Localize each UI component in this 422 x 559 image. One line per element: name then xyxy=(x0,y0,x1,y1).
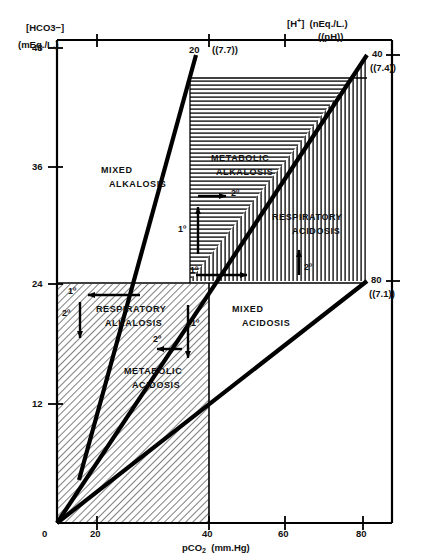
isoline-40-ph-label: ((7.4)) xyxy=(370,62,396,73)
region-respiratory-acidosis: RESPIRATORY xyxy=(272,211,342,223)
isoline-80-label: 80 xyxy=(371,274,382,285)
x-tick-20: 20 xyxy=(90,528,101,539)
x-axis-title: pCO2 (mm.Hg) xyxy=(182,542,250,554)
arrow-label-metabolic-acidosis-primary: 1º xyxy=(191,318,199,328)
region-metabolic-acidosis: METABOLIC xyxy=(124,365,182,377)
region-respiratory-alkalosis-line2: ALKALOSIS xyxy=(105,317,162,329)
region-respiratory-acidosis-line2: ACIDOSIS xyxy=(292,225,340,237)
arrow-label-respiratory-acidosis-primary: 1º xyxy=(190,265,198,275)
region-metabolic-acidosis-line2: ACIDOSIS xyxy=(132,379,180,391)
y-tick-24: 24 xyxy=(32,278,43,289)
right-axis-title-line1: [H+] (nEq./L.) xyxy=(287,14,348,30)
x-tick-60: 60 xyxy=(278,528,289,539)
region-respiratory-alkalosis: RESPIRATORY xyxy=(96,303,166,315)
isoline-80-ph-label: ((7.1)) xyxy=(369,288,395,299)
region-mixed-alkalosis: MIXED xyxy=(101,164,133,176)
region-mixed-acidosis-line2: ACIDOSIS xyxy=(242,317,290,329)
y-axis-title-line1: [HCO3−] xyxy=(26,22,64,33)
y-tick-48: 48 xyxy=(32,42,43,53)
isoline-20-label: 20 xyxy=(189,44,200,55)
isoline-20-ph-label: ((7.7)) xyxy=(212,44,238,55)
arrow-label-respiratory-alkalosis-secondary: 2º xyxy=(62,308,70,318)
arrow-label-metabolic-acidosis-secondary: 2º xyxy=(153,334,161,344)
diagram-canvas xyxy=(0,0,422,559)
x-tick-40: 40 xyxy=(202,528,213,539)
right-axis-title-line2: ((pH)) xyxy=(318,30,343,43)
region-metabolic-alkalosis-line2: ALKALOSIS xyxy=(216,166,273,178)
y-tick-0: 0 xyxy=(42,528,47,539)
acid-base-diagram: [HCO3−] (mEq./L.) 48 36 24 12 0 20 40 60… xyxy=(0,0,422,559)
arrow-label-metabolic-alkalosis-secondary: 2º xyxy=(231,188,239,198)
y-tick-12: 12 xyxy=(32,398,43,409)
region-metabolic-alkalosis: METABOLIC xyxy=(211,152,269,164)
arrow-label-metabolic-alkalosis-primary: 1º xyxy=(178,224,186,234)
y-tick-36: 36 xyxy=(32,161,43,172)
arrow-label-respiratory-acidosis-secondary: 2º xyxy=(304,262,312,272)
region-mixed-acidosis: MIXED xyxy=(232,303,264,315)
x-tick-80: 80 xyxy=(356,528,367,539)
arrow-label-respiratory-alkalosis-primary: 1º xyxy=(68,286,76,296)
isoline-40-label: 40 xyxy=(372,48,383,59)
region-mixed-alkalosis-line2: ALKALOSIS xyxy=(109,178,166,190)
